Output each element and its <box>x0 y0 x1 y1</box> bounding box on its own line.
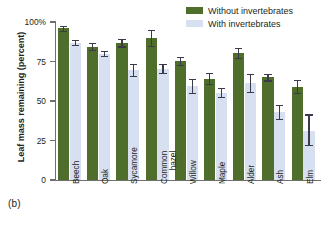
y-axis-title: Leaf mass remaining (percent) <box>16 17 26 177</box>
error-bar-cap <box>218 88 225 89</box>
x-tick-label: Oak <box>102 169 111 184</box>
error-bar-cap <box>305 114 312 115</box>
chart-legend: Without invertebratesWith invertebrates <box>186 4 293 30</box>
error-bar <box>133 64 134 76</box>
error-bar <box>238 48 239 58</box>
x-tick-label: Ash <box>277 170 286 184</box>
figure-panel: (b) Leaf mass remaining (percent) 025507… <box>0 0 328 236</box>
error-bar-cap <box>247 74 254 75</box>
bar-with-invertebrates <box>70 43 81 180</box>
error-bar-cap <box>159 64 166 65</box>
error-bar <box>308 114 309 145</box>
error-bar-cap <box>235 58 242 59</box>
error-bar-cap <box>235 48 242 49</box>
bar-without-invertebrates <box>87 47 98 181</box>
x-tick-label: Maple <box>219 162 228 184</box>
error-bar <box>250 74 251 91</box>
error-bar <box>192 79 193 93</box>
error-bar-cap <box>247 92 254 93</box>
error-bar <box>221 88 222 97</box>
error-bar-cap <box>305 145 312 146</box>
bar-with-invertebrates <box>99 54 110 180</box>
error-bar-cap <box>148 46 155 47</box>
bar-group <box>175 22 198 180</box>
bar-group <box>262 22 285 180</box>
error-bar-cap <box>118 46 125 47</box>
bar-group <box>87 22 110 180</box>
error-bar-cap <box>294 93 301 94</box>
error-bar <box>162 64 163 73</box>
error-bar-cap <box>72 40 79 41</box>
y-tick-label: 50 <box>37 96 46 106</box>
bar-without-invertebrates <box>262 77 273 180</box>
error-bar-cap <box>264 74 271 75</box>
legend-swatch-without <box>186 7 203 14</box>
error-bar-cap <box>72 45 79 46</box>
bar-without-invertebrates <box>233 53 244 180</box>
error-bar-cap <box>118 39 125 40</box>
legend-label: Without invertebrates <box>208 6 293 16</box>
error-bar-cap <box>206 73 213 74</box>
x-tick-label: Elm <box>307 170 316 184</box>
panel-label: (b) <box>8 198 21 209</box>
error-bar-cap <box>101 56 108 57</box>
error-bar-cap <box>206 84 213 85</box>
bar-without-invertebrates <box>58 28 69 180</box>
y-tick-label: 100% <box>25 17 46 27</box>
error-bar <box>209 73 210 83</box>
error-bar-cap <box>148 30 155 31</box>
x-tick-label: Alder <box>248 165 257 184</box>
error-bar-cap <box>60 31 67 32</box>
error-bar-cap <box>177 65 184 66</box>
error-bar <box>180 57 181 65</box>
x-tick-label: Sycamore <box>131 147 140 184</box>
bar-without-invertebrates <box>292 87 303 180</box>
error-bar-cap <box>130 64 137 65</box>
error-bar-cap <box>177 57 184 58</box>
error-bar-cap <box>89 50 96 51</box>
error-bar-cap <box>294 80 301 81</box>
error-bar-cap <box>189 79 196 80</box>
error-bar-cap <box>89 43 96 44</box>
bar-group <box>204 22 227 180</box>
legend-swatch-with <box>186 20 203 27</box>
plot-area <box>55 22 319 180</box>
error-bar <box>297 80 298 93</box>
error-bar-cap <box>189 93 196 94</box>
y-tick-label: 75 <box>37 57 46 67</box>
y-tick-label: 0 <box>41 175 46 185</box>
legend-label: With invertebrates <box>208 19 281 29</box>
x-tick-label-common-hazel: Common hazel <box>161 151 178 184</box>
error-bar-cap <box>101 51 108 52</box>
error-bar <box>151 30 152 46</box>
error-bar-cap <box>264 80 271 81</box>
bar-group <box>292 22 315 180</box>
bar-group <box>233 22 256 180</box>
bar-without-invertebrates <box>146 38 157 180</box>
error-bar-cap <box>60 26 67 27</box>
error-bar-cap <box>276 105 283 106</box>
error-bar-cap <box>276 119 283 120</box>
legend-item-with: With invertebrates <box>186 17 293 30</box>
x-tick-label: Willow <box>190 160 199 184</box>
error-bar-cap <box>218 97 225 98</box>
bar-without-invertebrates <box>204 79 215 180</box>
bar-without-invertebrates <box>116 43 127 180</box>
error-bar <box>279 105 280 119</box>
legend-item-without: Without invertebrates <box>186 4 293 17</box>
y-tick-label: 25 <box>37 136 46 146</box>
error-bar-cap <box>159 73 166 74</box>
error-bar-cap <box>130 76 137 77</box>
x-tick-label: Beech <box>73 161 82 184</box>
